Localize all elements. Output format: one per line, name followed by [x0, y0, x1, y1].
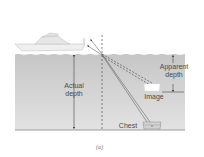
actual-depth-label-line1: Actual	[57, 82, 91, 90]
actual-depth-label: Actual depth	[57, 82, 91, 98]
chest-label: Chest	[115, 122, 141, 130]
apparent-depth-label: Apparent depth	[152, 63, 196, 79]
ray-air-1	[91, 40, 102, 54]
apparent-depth-label-line2: depth	[152, 71, 196, 79]
boat-icon	[15, 33, 85, 51]
image-label: Image	[139, 93, 169, 101]
apparent-depth-label-line1: Apparent	[152, 63, 196, 71]
figure-caption: (a)	[96, 144, 103, 150]
chest-icon	[143, 122, 161, 129]
actual-depth-label-line2: depth	[57, 90, 91, 98]
image-icon	[144, 84, 160, 91]
